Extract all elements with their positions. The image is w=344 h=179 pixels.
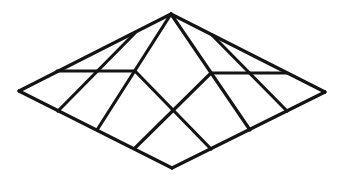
edge-right-apex-line bbox=[171, 14, 325, 92]
pyramid-line-drawing bbox=[0, 0, 344, 179]
pyramid-diagram bbox=[0, 0, 344, 179]
